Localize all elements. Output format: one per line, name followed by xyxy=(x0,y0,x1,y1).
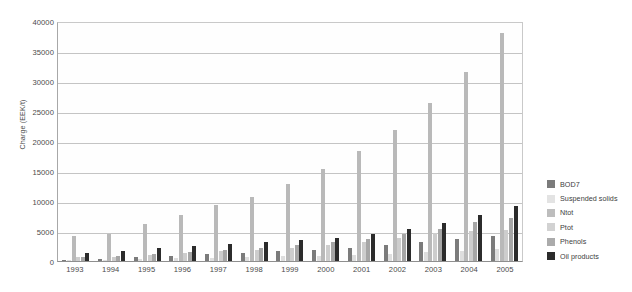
x-tick-label: 2003 xyxy=(425,265,442,279)
legend-label: Suspended solids xyxy=(560,194,618,203)
bar xyxy=(223,250,227,261)
bar xyxy=(331,242,335,261)
bar xyxy=(264,242,268,261)
y-tick-label: 0 xyxy=(18,258,54,267)
bar xyxy=(255,250,259,261)
bar xyxy=(393,130,397,261)
bar-group xyxy=(169,23,196,261)
bar xyxy=(357,151,361,261)
x-tick-label: 1996 xyxy=(174,265,191,279)
bar xyxy=(478,215,482,261)
legend-item: Oil products xyxy=(547,249,631,263)
bar xyxy=(183,253,187,261)
bar xyxy=(348,248,352,261)
x-axis-labels: 1993199419951996199719981999200020012002… xyxy=(57,265,523,279)
bar xyxy=(455,239,459,261)
bar xyxy=(281,256,285,261)
bar xyxy=(509,218,513,261)
bar xyxy=(442,223,446,261)
bar xyxy=(295,245,299,261)
bar-group xyxy=(312,23,339,261)
y-axis-title: Charge (EEK/t) xyxy=(18,55,27,195)
bar xyxy=(335,238,339,261)
x-tick-label: 1999 xyxy=(281,265,298,279)
x-tick-label: 2005 xyxy=(496,265,513,279)
legend-item: Ntot xyxy=(547,206,631,220)
bar xyxy=(210,258,214,261)
bar xyxy=(179,215,183,262)
bar xyxy=(500,33,504,261)
bar xyxy=(402,234,406,261)
chart-legend: BOD7Suspended solidsNtotPtotPhenolsOil p… xyxy=(547,177,631,263)
bar xyxy=(473,222,477,261)
x-tick-label: 1994 xyxy=(102,265,119,279)
bar-group xyxy=(348,23,375,261)
bar xyxy=(205,254,209,261)
bar xyxy=(103,260,107,261)
bar xyxy=(188,252,192,261)
bar xyxy=(245,257,249,261)
bar-group xyxy=(62,23,89,261)
bar xyxy=(464,72,468,261)
bar xyxy=(169,256,173,261)
bar-group xyxy=(491,23,518,261)
bar xyxy=(157,248,161,261)
legend-label: Ntot xyxy=(560,208,573,217)
bar xyxy=(241,253,245,261)
bar xyxy=(98,259,102,261)
bar xyxy=(121,251,125,261)
bar xyxy=(299,240,303,261)
legend-label: Oil products xyxy=(560,252,599,261)
bar xyxy=(72,236,76,261)
bar xyxy=(85,253,89,261)
bar-group xyxy=(134,23,161,261)
bar xyxy=(286,184,290,261)
bar xyxy=(219,251,223,261)
bar-groups xyxy=(58,23,522,261)
bar-group xyxy=(241,23,268,261)
bar xyxy=(62,260,66,261)
bar xyxy=(228,244,232,261)
bar-group xyxy=(98,23,125,261)
legend-swatch-icon xyxy=(547,238,555,246)
y-tick-label: 40000 xyxy=(18,18,54,27)
bar xyxy=(366,239,370,261)
bar xyxy=(134,257,138,261)
x-tick-label: 2004 xyxy=(461,265,478,279)
legend-item: BOD7 xyxy=(547,177,631,191)
x-tick-label: 1995 xyxy=(138,265,155,279)
legend-item: Phenols xyxy=(547,235,631,249)
bar xyxy=(290,248,294,262)
bar xyxy=(433,233,437,261)
bar xyxy=(276,251,280,261)
bar-group xyxy=(276,23,303,261)
legend-swatch-icon xyxy=(547,209,555,217)
bar xyxy=(214,205,218,261)
legend-swatch-icon xyxy=(547,223,555,231)
bar xyxy=(152,254,156,261)
bar xyxy=(81,257,85,261)
bar xyxy=(321,169,325,261)
bar xyxy=(138,259,142,261)
x-tick-label: 1998 xyxy=(245,265,262,279)
bar xyxy=(428,103,432,261)
legend-swatch-icon xyxy=(547,195,555,203)
legend-label: Phenols xyxy=(560,237,586,246)
bar xyxy=(326,245,330,261)
x-tick-label: 2000 xyxy=(317,265,334,279)
bar xyxy=(460,251,464,262)
legend-swatch-icon xyxy=(547,180,555,188)
bar xyxy=(504,230,508,261)
bar-group xyxy=(205,23,232,261)
bar xyxy=(407,229,411,261)
bar-group xyxy=(384,23,411,261)
bar xyxy=(362,242,366,261)
plot-area xyxy=(57,22,523,262)
x-tick-label: 1997 xyxy=(210,265,227,279)
bar xyxy=(312,250,316,261)
bar xyxy=(371,234,375,261)
bar-group xyxy=(419,23,446,261)
bar-group xyxy=(455,23,482,261)
bar xyxy=(76,257,80,261)
bar xyxy=(469,231,473,261)
